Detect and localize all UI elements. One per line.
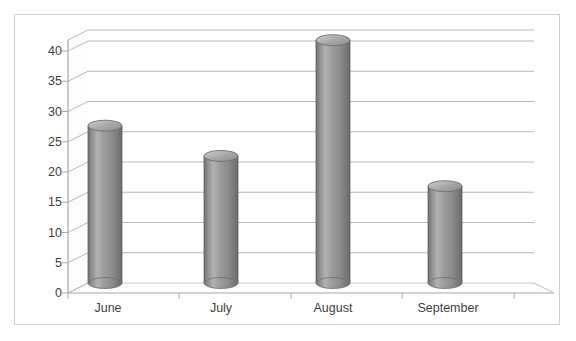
x-tick-july: July <box>176 302 266 315</box>
x-tick-august: August <box>288 302 378 315</box>
x-tick-september: September <box>398 302 498 315</box>
x-tick-june: June <box>63 302 153 315</box>
chart-x-axis-labels: June July August September <box>0 0 576 341</box>
